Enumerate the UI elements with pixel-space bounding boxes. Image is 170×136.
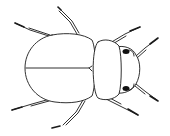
beetle-illustration xyxy=(0,0,170,136)
right-eye xyxy=(123,86,130,91)
beetle-drawing xyxy=(0,0,170,136)
left-eye xyxy=(123,49,130,54)
pronotum xyxy=(93,40,121,100)
